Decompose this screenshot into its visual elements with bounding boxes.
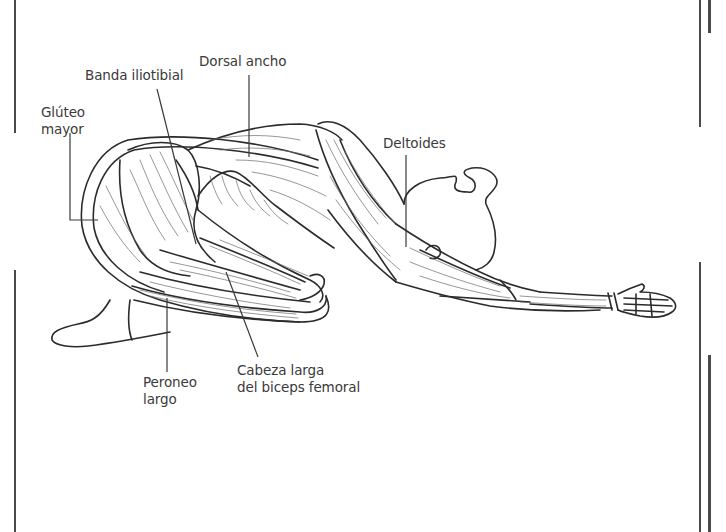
anatomy-figure: Dorsal ancho Banda iliotibial Glúteo may…: [0, 0, 726, 532]
label-deltoides: Deltoides: [383, 135, 446, 152]
label-text: Cabeza larga: [237, 362, 360, 379]
label-gluteo-mayor: Glúteo mayor: [41, 104, 85, 138]
label-text: Peroneo: [143, 374, 197, 391]
label-text: del biceps femoral: [237, 379, 360, 396]
arm-upper-outline: [396, 224, 540, 292]
foot-outline: [52, 300, 170, 347]
label-text: mayor: [41, 121, 85, 138]
label-cabeza-larga: Cabeza larga del biceps femoral: [237, 362, 360, 396]
head-outline: [404, 168, 497, 270]
label-text: Banda iliotibial: [85, 67, 184, 84]
label-text: Deltoides: [383, 135, 446, 152]
leader-lines: [70, 75, 406, 372]
gluteus-outline: [128, 143, 215, 263]
label-text: Dorsal ancho: [199, 53, 286, 70]
label-banda-iliotibial: Banda iliotibial: [85, 67, 184, 84]
leader-banda-iliotibial: [157, 89, 196, 244]
leader-cabeza-larga: [226, 272, 258, 357]
label-dorsal-ancho: Dorsal ancho: [199, 53, 286, 70]
label-text: Glúteo: [41, 104, 85, 121]
label-text: largo: [143, 391, 197, 408]
label-peroneo-largo: Peroneo largo: [143, 374, 197, 408]
forearm-outline: [540, 292, 612, 296]
